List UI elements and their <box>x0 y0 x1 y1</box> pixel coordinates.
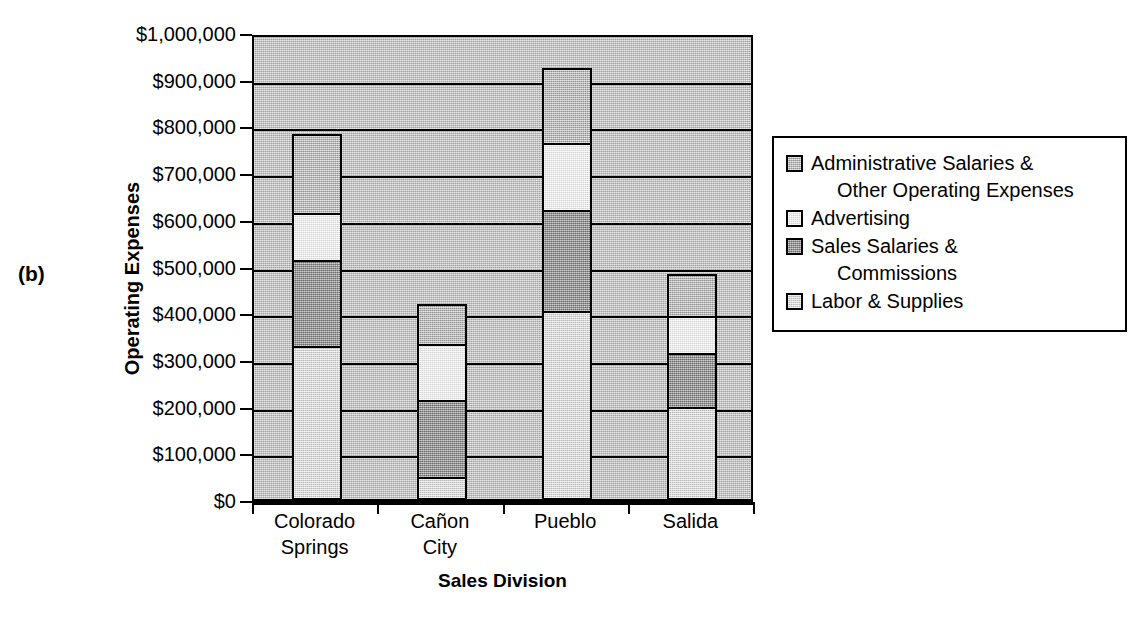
y-tick-mark <box>240 454 252 456</box>
y-tick-mark <box>240 268 252 270</box>
bar-segment[interactable] <box>292 134 342 215</box>
legend-item-label: Sales Salaries &Commissions <box>811 233 958 287</box>
bar-segment[interactable] <box>417 477 467 500</box>
bar-segment[interactable] <box>542 210 592 313</box>
y-tick-mark <box>240 361 252 363</box>
bar-segment[interactable] <box>542 311 592 500</box>
x-axis-title: Sales Division <box>252 570 753 592</box>
bar-segment[interactable] <box>667 316 717 355</box>
bar-segment[interactable] <box>292 213 342 262</box>
legend-item-label: Administrative Salaries &Other Operating… <box>811 150 1074 204</box>
x-tick-label: Pueblo <box>495 508 635 534</box>
bar-segment[interactable] <box>417 344 467 402</box>
bar-segment[interactable] <box>667 407 717 500</box>
y-axis-tick-labels: $1,000,000$900,000$800,000$700,000$600,0… <box>84 0 236 632</box>
legend-swatch-icon <box>786 210 803 227</box>
legend-item-label-line2: Commissions <box>811 260 958 287</box>
y-tick-mark <box>240 408 252 410</box>
stacked-bar-chart-figure: (b) Operating Expenses $1,000,000$900,00… <box>0 0 1144 632</box>
bar-segment[interactable] <box>292 346 342 500</box>
y-tick-mark <box>240 127 252 129</box>
legend-item[interactable]: Advertising <box>786 205 1115 232</box>
y-tick-label: $700,000 <box>86 164 236 184</box>
y-tick-label: $0 <box>86 491 236 511</box>
y-tick-label: $500,000 <box>86 258 236 278</box>
y-tick-label: $100,000 <box>86 444 236 464</box>
panel-label: (b) <box>18 262 45 286</box>
bar-colorado-springs[interactable] <box>292 35 342 499</box>
plot-area <box>252 35 753 502</box>
y-tick-label: $600,000 <box>86 211 236 231</box>
y-tick-mark <box>240 314 252 316</box>
bar-segment[interactable] <box>667 353 717 409</box>
bar-salida[interactable] <box>667 35 717 499</box>
x-tick-label: ColoradoSprings <box>245 508 385 560</box>
y-tick-label: $300,000 <box>86 351 236 371</box>
bar-segment[interactable] <box>417 304 467 346</box>
bar-segment[interactable] <box>667 274 717 318</box>
y-tick-mark <box>240 81 252 83</box>
legend-item-label-line2: Other Operating Expenses <box>811 177 1074 204</box>
y-tick-label: $1,000,000 <box>86 24 236 44</box>
bar-ca-on-city[interactable] <box>417 35 467 499</box>
legend: Administrative Salaries &Other Operating… <box>772 136 1127 332</box>
y-tick-mark <box>240 501 252 503</box>
y-tick-label: $800,000 <box>86 117 236 137</box>
bar-segment[interactable] <box>417 400 467 479</box>
y-tick-mark <box>240 174 252 176</box>
legend-item[interactable]: Sales Salaries &Commissions <box>786 233 1115 287</box>
x-tick-label: CañonCity <box>370 508 510 560</box>
bar-pueblo[interactable] <box>542 35 592 499</box>
legend-item[interactable]: Administrative Salaries &Other Operating… <box>786 150 1115 204</box>
legend-item[interactable]: Labor & Supplies <box>786 288 1115 315</box>
y-tick-label: $400,000 <box>86 304 236 324</box>
bar-segment[interactable] <box>542 68 592 145</box>
y-tick-mark <box>240 34 252 36</box>
legend-item-label: Advertising <box>811 205 910 232</box>
legend-swatch-icon <box>786 155 803 172</box>
y-tick-label: $900,000 <box>86 71 236 91</box>
legend-rows: Administrative Salaries &Other Operating… <box>786 150 1115 315</box>
legend-swatch-icon <box>786 293 803 310</box>
y-tick-mark <box>240 221 252 223</box>
legend-item-label: Labor & Supplies <box>811 288 963 315</box>
legend-swatch-icon <box>786 238 803 255</box>
x-tick-label: Salida <box>620 508 760 534</box>
bar-segment[interactable] <box>292 260 342 348</box>
y-tick-label: $200,000 <box>86 398 236 418</box>
bar-segment[interactable] <box>542 143 592 212</box>
